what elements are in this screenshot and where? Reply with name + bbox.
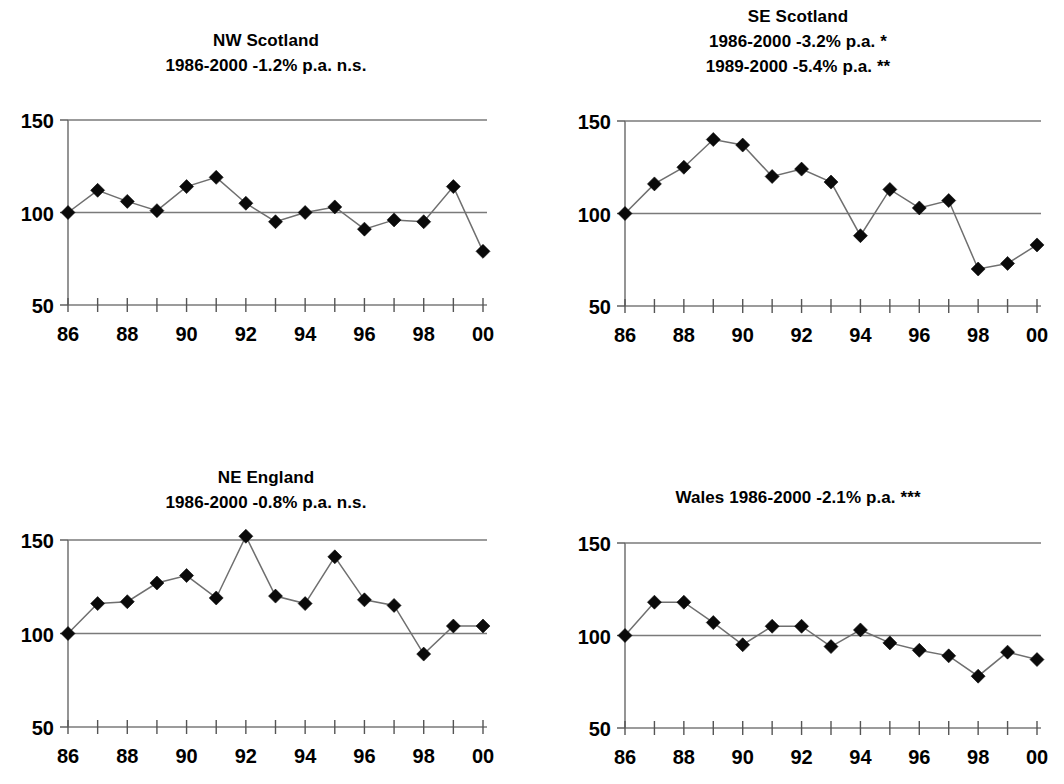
x-tick-label: 88: [116, 745, 138, 767]
x-tick-label: 88: [116, 323, 138, 345]
data-point-marker: [765, 619, 779, 633]
x-tick-label: 94: [849, 746, 872, 768]
data-point-marker: [357, 593, 371, 607]
x-tick-label: 96: [908, 324, 930, 346]
chart-subtitle-line: 1989-2000 -5.4% p.a. **: [532, 54, 1064, 79]
y-tick-label: 50: [32, 717, 54, 739]
chart-title: NE England: [0, 465, 532, 490]
chart-title-block: NE England1986-2000 -0.8% p.a. n.s.: [0, 465, 532, 515]
x-tick-label: 90: [732, 324, 754, 346]
x-tick-label: 94: [849, 324, 872, 346]
y-tick-label: 100: [21, 203, 54, 225]
data-point-marker: [824, 175, 838, 189]
x-tick-label: 96: [353, 745, 375, 767]
chart-title-block: SE Scotland1986-2000 -3.2% p.a. *1989-20…: [532, 4, 1064, 79]
x-tick-label: 90: [175, 745, 197, 767]
data-point-marker: [239, 529, 253, 543]
chart-title-block: NW Scotland1986-2000 -1.2% p.a. n.s.: [0, 28, 532, 78]
data-point-marker: [91, 183, 105, 197]
x-tick-label: 90: [175, 323, 197, 345]
data-point-marker: [476, 619, 490, 633]
y-tick-label: 150: [21, 530, 54, 552]
data-point-marker: [736, 638, 750, 652]
plot-area: 501001508688909294969800: [625, 529, 1053, 784]
chart-panel-top-left: NW Scotland1986-2000 -1.2% p.a. n.s.5010…: [0, 0, 532, 440]
data-point-marker: [387, 213, 401, 227]
x-tick-label: 98: [967, 324, 989, 346]
x-tick-label: 94: [294, 323, 317, 345]
data-point-marker: [209, 591, 223, 605]
x-tick-label: 88: [673, 324, 695, 346]
x-tick-label: 92: [235, 323, 257, 345]
data-point-marker: [298, 597, 312, 611]
chart-title: NW Scotland: [0, 28, 532, 53]
x-tick-label: 92: [790, 746, 812, 768]
data-point-marker: [853, 229, 867, 243]
chart-subtitle-line: 1986-2000 -0.8% p.a. n.s.: [0, 490, 532, 515]
chart-panel-top-right: SE Scotland1986-2000 -3.2% p.a. *1989-20…: [532, 0, 1064, 440]
data-point-marker: [120, 194, 134, 208]
y-tick-label: 100: [578, 626, 611, 648]
data-point-marker: [476, 244, 490, 258]
x-tick-label: 92: [235, 745, 257, 767]
data-point-marker: [971, 262, 985, 276]
x-tick-label: 00: [472, 323, 494, 345]
x-tick-label: 92: [790, 324, 812, 346]
x-tick-label: 98: [413, 323, 435, 345]
y-tick-label: 100: [578, 204, 611, 226]
x-tick-label: 98: [967, 746, 989, 768]
data-point-marker: [795, 619, 809, 633]
data-point-marker: [180, 569, 194, 583]
x-tick-label: 96: [353, 323, 375, 345]
y-tick-label: 150: [578, 533, 611, 555]
data-point-marker: [942, 194, 956, 208]
data-point-marker: [795, 162, 809, 176]
figure-multi-panel-line-charts: NW Scotland1986-2000 -1.2% p.a. n.s.5010…: [0, 0, 1064, 784]
data-point-marker: [120, 595, 134, 609]
data-point-marker: [150, 576, 164, 590]
data-point-marker: [269, 589, 283, 603]
x-tick-label: 86: [614, 324, 636, 346]
x-tick-label: 00: [472, 745, 494, 767]
chart-panel-bottom-left: NE England1986-2000 -0.8% p.a. n.s.50100…: [0, 440, 532, 784]
data-point-marker: [387, 598, 401, 612]
chart-title: Wales 1986-2000 -2.1% p.a. ***: [532, 485, 1064, 510]
x-tick-label: 96: [908, 746, 930, 768]
data-point-marker: [1001, 256, 1015, 270]
data-point-marker: [912, 643, 926, 657]
x-tick-label: 86: [57, 745, 79, 767]
data-point-marker: [357, 222, 371, 236]
x-tick-label: 86: [614, 746, 636, 768]
data-point-marker: [269, 215, 283, 229]
y-tick-label: 50: [32, 295, 54, 317]
y-tick-label: 150: [21, 110, 54, 132]
data-point-marker: [298, 206, 312, 220]
data-point-marker: [61, 206, 75, 220]
y-tick-label: 50: [589, 296, 611, 318]
plot-area: 501001508688909294969800: [68, 526, 499, 784]
x-tick-label: 86: [57, 323, 79, 345]
x-tick-label: 98: [413, 745, 435, 767]
chart-title: SE Scotland: [532, 4, 1064, 29]
x-tick-label: 00: [1026, 746, 1048, 768]
y-tick-label: 100: [21, 624, 54, 646]
data-point-marker: [824, 640, 838, 654]
data-point-marker: [328, 550, 342, 564]
y-tick-label: 150: [578, 111, 611, 133]
data-point-marker: [883, 182, 897, 196]
plot-area: 501001508688909294969800: [68, 106, 499, 365]
chart-panel-bottom-right: Wales 1986-2000 -2.1% p.a. ***5010015086…: [532, 440, 1064, 784]
data-point-marker: [883, 636, 897, 650]
x-tick-label: 94: [294, 745, 317, 767]
data-point-marker: [1030, 238, 1044, 252]
chart-subtitle-line: 1986-2000 -3.2% p.a. *: [532, 29, 1064, 54]
data-point-marker: [706, 616, 720, 630]
y-tick-label: 50: [589, 718, 611, 740]
data-point-marker: [1030, 653, 1044, 667]
x-tick-label: 00: [1026, 324, 1048, 346]
x-tick-label: 90: [732, 746, 754, 768]
series-line: [625, 140, 1037, 270]
plot-area: 501001508688909294969800: [625, 107, 1053, 366]
data-point-marker: [677, 595, 691, 609]
data-point-marker: [942, 649, 956, 663]
